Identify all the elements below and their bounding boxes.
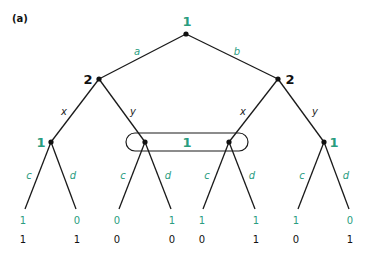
payoff-p2: 0 bbox=[293, 234, 299, 245]
il-action-c-label: c bbox=[120, 170, 126, 181]
left-action-y-label: y bbox=[129, 106, 137, 117]
payoff-p1: 1 bbox=[199, 215, 205, 226]
left-action-x-label: x bbox=[60, 106, 67, 117]
payoff-p1: 0 bbox=[114, 215, 120, 226]
payoff-p2: 0 bbox=[169, 234, 175, 245]
payoff-p1: 1 bbox=[20, 215, 26, 226]
ir-action-d-label: d bbox=[249, 170, 256, 181]
ll-player1-label: 1 bbox=[36, 135, 45, 150]
ir-action-c-label: c bbox=[204, 170, 210, 181]
payoff-p1: 1 bbox=[253, 215, 259, 226]
payoff-p2: 1 bbox=[347, 234, 353, 245]
info-right-node bbox=[226, 139, 231, 144]
info-left-node bbox=[142, 139, 147, 144]
root-node bbox=[183, 31, 188, 36]
payoff-p1: 1 bbox=[169, 215, 175, 226]
panel-label: (a) bbox=[12, 13, 28, 24]
ll-action-d-label: d bbox=[70, 170, 77, 181]
payoff-p2: 1 bbox=[20, 234, 26, 245]
left-player2-label: 2 bbox=[83, 72, 92, 87]
right-action-x-label: x bbox=[239, 106, 246, 117]
game-tree-diagram: (a) 1 2 2 1 1 1 a b x y x y c d c d c d … bbox=[0, 0, 373, 263]
ll-player1-node bbox=[48, 139, 53, 144]
payoff-p2: 1 bbox=[74, 234, 80, 245]
payoff-p1: 0 bbox=[74, 215, 80, 226]
rr-player1-node bbox=[321, 139, 326, 144]
payoff-p1: 0 bbox=[347, 215, 353, 226]
edge-left-x bbox=[51, 79, 99, 142]
edge-b bbox=[186, 34, 278, 79]
left-player2-node bbox=[96, 76, 101, 81]
rr-action-c-label: c bbox=[299, 170, 305, 181]
action-a-label: a bbox=[134, 46, 140, 57]
info-set-player-label: 1 bbox=[182, 135, 191, 150]
il-action-d-label: d bbox=[165, 170, 172, 181]
rr-action-d-label: d bbox=[343, 170, 350, 181]
payoff-p2: 0 bbox=[199, 234, 205, 245]
payoff-p2: 1 bbox=[253, 234, 259, 245]
root-player-label: 1 bbox=[182, 14, 191, 29]
rr-player1-label: 1 bbox=[329, 135, 338, 150]
ll-action-c-label: c bbox=[26, 170, 32, 181]
payoff-p2: 0 bbox=[114, 234, 120, 245]
right-player2-node bbox=[275, 76, 280, 81]
edge-a bbox=[99, 34, 186, 79]
action-b-label: b bbox=[234, 46, 240, 57]
right-player2-label: 2 bbox=[285, 72, 294, 87]
payoff-p1: 1 bbox=[293, 215, 299, 226]
right-action-y-label: y bbox=[311, 106, 319, 117]
